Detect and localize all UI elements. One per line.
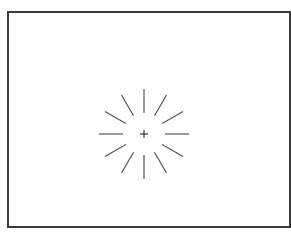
ray-line — [162, 112, 183, 124]
ray-line — [122, 95, 134, 116]
ray-line — [105, 112, 126, 124]
fixation-cross-icon — [140, 130, 148, 138]
ray-line — [155, 152, 167, 173]
ray-line — [122, 152, 134, 173]
ray-line — [162, 145, 183, 157]
ray-line — [105, 145, 126, 157]
ray-line — [155, 95, 167, 116]
burst-diagram — [0, 0, 291, 233]
